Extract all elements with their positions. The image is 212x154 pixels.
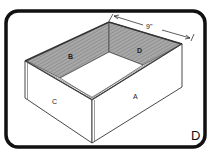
panel-label-b: B: [68, 53, 73, 60]
panel-label-d: D: [137, 47, 142, 54]
figure-corner-label: D: [191, 128, 200, 143]
dimension-label: 9": [146, 23, 153, 30]
panel-label-a: A: [133, 93, 138, 100]
box-diagram: 9" B D C A: [0, 0, 212, 154]
panel-label-c: C: [52, 98, 57, 105]
